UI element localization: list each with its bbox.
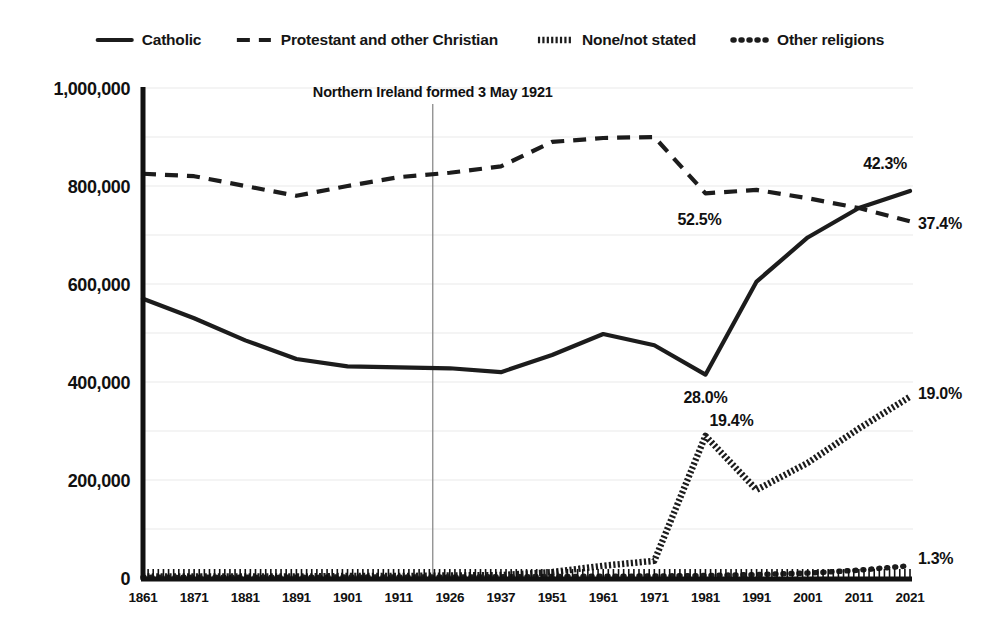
x-tick-label: 1891 bbox=[282, 590, 312, 605]
legend-label: None/not stated bbox=[582, 31, 696, 48]
data-point-label: 52.5% bbox=[678, 211, 722, 228]
data-point-label: 1.3% bbox=[918, 550, 953, 567]
x-tick-label: 1961 bbox=[589, 590, 619, 605]
x-tick-label: 1951 bbox=[538, 590, 568, 605]
x-tick-label: 1971 bbox=[640, 590, 670, 605]
x-tick-label: 2021 bbox=[896, 590, 926, 605]
data-point-label: 42.3% bbox=[863, 155, 907, 172]
legend-label: Other religions bbox=[777, 31, 884, 48]
chart-container: CatholicProtestant and other ChristianNo… bbox=[0, 0, 985, 637]
y-tick-label: 200,000 bbox=[68, 471, 131, 491]
x-tick-label: 1901 bbox=[333, 590, 363, 605]
data-point-label: 19.0% bbox=[918, 385, 962, 402]
x-tick-label: 1926 bbox=[435, 590, 465, 605]
x-tick-label: 2011 bbox=[845, 590, 874, 605]
y-tick-label: 1,000,000 bbox=[54, 79, 131, 99]
legend-label: Protestant and other Christian bbox=[281, 31, 498, 48]
x-tick-label: 1981 bbox=[691, 590, 721, 605]
y-tick-label: 0 bbox=[120, 569, 130, 589]
data-point-label: 37.4% bbox=[918, 215, 962, 232]
religion-affiliation-line-chart: CatholicProtestant and other ChristianNo… bbox=[0, 0, 985, 637]
y-tick-label: 600,000 bbox=[68, 275, 131, 295]
x-tick-label: 2001 bbox=[793, 590, 823, 605]
x-tick-label: 1937 bbox=[487, 590, 516, 605]
annotation-label: Northern Ireland formed 3 May 1921 bbox=[313, 84, 553, 100]
x-tick-label: 1871 bbox=[180, 590, 210, 605]
data-point-label: 28.0% bbox=[684, 389, 728, 406]
data-point-label: 19.4% bbox=[709, 412, 753, 429]
y-tick-label: 400,000 bbox=[68, 373, 131, 393]
x-tick-label: 1991 bbox=[742, 590, 772, 605]
y-tick-label: 800,000 bbox=[68, 177, 131, 197]
legend-label: Catholic bbox=[142, 31, 202, 48]
x-tick-label: 1881 bbox=[231, 590, 261, 605]
x-tick-label: 1911 bbox=[385, 590, 414, 605]
x-tick-label: 1861 bbox=[129, 590, 159, 605]
